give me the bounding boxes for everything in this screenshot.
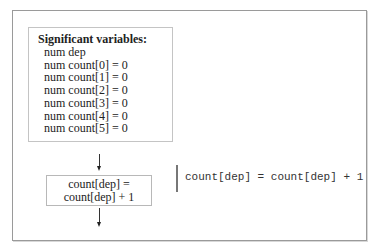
variable-line: num count[2] = 0	[38, 84, 172, 97]
statement-line-2: count[dep] + 1	[47, 191, 151, 204]
significant-variables-box: Significant variables: num dep num count…	[28, 27, 173, 142]
variable-line: num count[5] = 0	[38, 122, 172, 135]
code-line: count[dep] = count[dep] + 1	[185, 171, 363, 184]
code-margin-bar	[176, 165, 178, 192]
arrow-down-icon	[97, 154, 102, 171]
arrow-down-icon	[97, 208, 102, 227]
statement-box: count[dep] = count[dep] + 1	[46, 175, 152, 206]
variable-line: num dep	[38, 46, 172, 59]
variable-line: num count[3] = 0	[38, 97, 172, 110]
